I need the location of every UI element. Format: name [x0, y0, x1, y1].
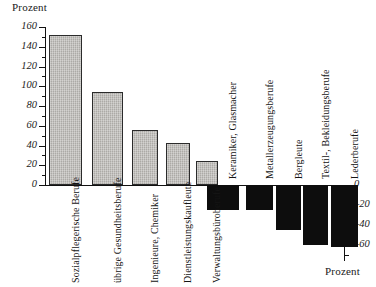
category-label-positive: Ingenieure, Chemiker — [149, 194, 160, 283]
left-axis-tick-label: 140 — [2, 40, 37, 51]
chart-figure: Prozent Prozent 1601401201008060402000–2… — [0, 0, 376, 287]
left-axis-tick-label: 80 — [2, 99, 37, 110]
bar-negative — [276, 185, 301, 230]
left-axis-tick-label: 0 — [2, 178, 37, 189]
bar-positive — [92, 92, 123, 185]
bar-negative — [246, 185, 273, 210]
left-axis-tick — [39, 146, 45, 147]
left-axis-tick — [42, 37, 46, 38]
left-axis-tick — [42, 155, 46, 156]
category-label-negative: Bergleute — [293, 139, 304, 179]
left-axis-tick — [39, 47, 45, 48]
bar-negative — [303, 185, 328, 245]
bar-positive — [166, 143, 190, 185]
left-axis-tick — [39, 165, 45, 166]
left-axis-tick — [42, 76, 46, 77]
bar-negative — [331, 185, 358, 247]
category-label-negative: Keramiker, Glasmacher — [227, 82, 238, 179]
bar-positive — [132, 130, 158, 185]
category-label-negative: Metallerzeugungsberufe — [264, 80, 275, 179]
left-axis-title: Prozent — [12, 1, 47, 13]
left-axis-tick-label: 40 — [2, 139, 37, 150]
left-axis-tick — [39, 86, 45, 87]
category-label-positive: Sozialpflegerische Berufe — [70, 177, 81, 283]
right-axis-tick — [345, 255, 349, 256]
left-axis-tick-label: 100 — [2, 79, 37, 90]
category-label-negative: Lederberufe — [349, 129, 360, 179]
right-axis-title: Prozent — [325, 265, 360, 277]
category-label-negative: Textil-, Bekleidungsberufe — [320, 69, 331, 179]
left-axis-tick — [42, 175, 46, 176]
bar-positive — [196, 161, 218, 185]
left-axis-tick — [39, 126, 45, 127]
left-axis-tick — [42, 136, 46, 137]
left-axis-tick — [39, 27, 45, 28]
left-axis-tick-label: 160 — [2, 20, 37, 31]
category-label-positive: Dienstleistungskaufleute — [182, 182, 193, 283]
left-axis-tick — [39, 185, 45, 186]
left-axis-tick — [39, 106, 45, 107]
left-axis-tick — [42, 57, 46, 58]
category-label-positive: übrige Gesundheitsberufe — [112, 178, 123, 283]
left-axis-tick — [42, 96, 46, 97]
left-y-axis — [45, 27, 46, 186]
left-axis-tick-label: 120 — [2, 60, 37, 71]
left-axis-tick-label: 20 — [2, 158, 37, 169]
category-label-positive: Verwaltungsbüroberufe — [211, 187, 222, 283]
bar-positive — [49, 35, 82, 185]
left-axis-tick — [42, 116, 46, 117]
left-axis-tick-label: 60 — [2, 119, 37, 130]
left-axis-tick — [39, 67, 45, 68]
